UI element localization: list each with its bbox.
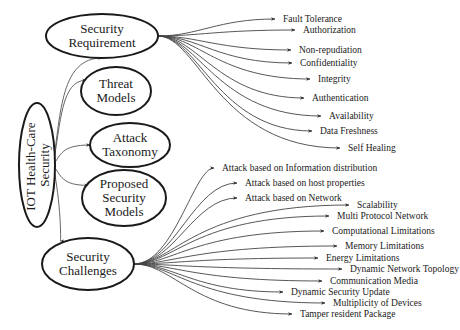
edge-to-leaf bbox=[158, 19, 275, 36]
category-label-line: Attack bbox=[113, 130, 148, 145]
leaf-label: Authorization bbox=[303, 25, 356, 35]
leaf-label: Fault Tolerance bbox=[283, 14, 342, 24]
category-label-line: Security bbox=[102, 190, 146, 205]
category-node-attack-taxonomy[interactable]: AttackTaxonomy bbox=[90, 123, 170, 167]
category-node-proposed-security-models[interactable]: ProposedSecurityModels bbox=[82, 170, 166, 226]
edge-to-leaf bbox=[158, 30, 295, 36]
category-label-line: Models bbox=[97, 90, 136, 105]
category-label-line: Requirement bbox=[68, 35, 136, 50]
leaf-label: Attack based on Information distribution bbox=[222, 163, 377, 173]
leaf-label: Confidentiality bbox=[300, 58, 358, 68]
edge-root-to-attack-taxonomy bbox=[53, 145, 90, 165]
leaf-label: Multiplicity of Devices bbox=[333, 298, 422, 308]
leaf-label: Energy Limitations bbox=[326, 253, 400, 263]
category-label-line: Models bbox=[105, 204, 144, 219]
edge-root-to-proposed-security-models bbox=[53, 165, 88, 185]
category-nodes: SecurityRequirementThreatModelsAttackTax… bbox=[42, 14, 170, 290]
leaf-label: Dynamic Security Update bbox=[291, 287, 390, 297]
edge-to-leaf bbox=[134, 264, 342, 269]
leaf-label: Availability bbox=[329, 111, 374, 121]
iot-security-taxonomy-diagram: IOT Health-Care Security SecurityRequire… bbox=[0, 0, 460, 330]
edge-to-leaf bbox=[134, 216, 329, 264]
category-label-line: Taxonomy bbox=[102, 144, 158, 159]
category-node-security-requirement[interactable]: SecurityRequirement bbox=[46, 14, 158, 58]
category-label: ProposedSecurityModels bbox=[100, 176, 149, 219]
leaf-label: Attack based on Network bbox=[245, 193, 342, 203]
leaf-label: Multi Protocol Network bbox=[337, 211, 429, 221]
category-label-line: Security bbox=[80, 21, 124, 36]
edge-to-leaf bbox=[134, 264, 325, 303]
leaf-label: Computational Limitations bbox=[332, 226, 435, 236]
leaf-label: Non-repudiation bbox=[299, 45, 362, 55]
root-node[interactable]: IOT Health-Care Security bbox=[19, 103, 55, 227]
category-label-line: Security bbox=[66, 249, 110, 264]
category-node-threat-models[interactable]: ThreatModels bbox=[81, 67, 151, 115]
leaf-label: Integrity bbox=[318, 74, 351, 84]
leaf-label: Communication Media bbox=[330, 276, 419, 286]
root-label-line2: Security bbox=[37, 143, 52, 187]
edge-to-leaf bbox=[134, 231, 324, 264]
leaf-labels: Fault ToleranceAuthorizationNon-repudiat… bbox=[222, 14, 459, 319]
leaf-label: Tamper resident Package bbox=[300, 309, 395, 319]
root-label-line1: IOT Health-Care bbox=[23, 122, 38, 210]
category-label-line: Threat bbox=[99, 76, 133, 91]
edge-to-leaf bbox=[134, 205, 349, 264]
category-label: ThreatModels bbox=[97, 76, 136, 105]
category-node-security-challenges[interactable]: SecurityChallenges bbox=[42, 238, 134, 290]
leaf-label: Data Freshness bbox=[320, 126, 378, 136]
leaf-label: Attack based on host properties bbox=[245, 178, 365, 188]
leaf-label: Memory Limitations bbox=[345, 241, 424, 251]
leaf-label: Dynamic Network Topology bbox=[350, 264, 459, 274]
leaf-label: Self Healing bbox=[348, 143, 396, 153]
category-label-line: Challenges bbox=[59, 263, 117, 278]
category-label: SecurityChallenges bbox=[59, 249, 117, 278]
leaf-label: Authentication bbox=[312, 93, 369, 103]
category-label-line: Proposed bbox=[100, 176, 149, 191]
leaf-label: Scalability bbox=[357, 200, 398, 210]
